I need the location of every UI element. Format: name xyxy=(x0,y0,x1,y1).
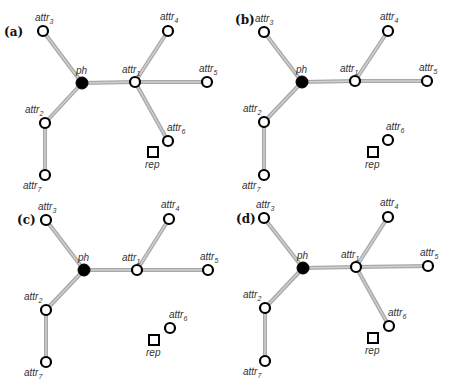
figure-canvas: phattr1attr2attr3attr4attr5attr6attr7rep… xyxy=(0,0,453,392)
node-label: attr1 xyxy=(122,64,140,77)
node-label: attr4 xyxy=(380,197,398,210)
node-label: attr3 xyxy=(38,201,56,214)
panel-label: (d) xyxy=(236,212,256,226)
rep-node: rep xyxy=(365,147,380,170)
node-attr4: attr4 xyxy=(160,11,178,36)
edge-ph-attr2 xyxy=(46,270,84,310)
attr-node-marker xyxy=(384,321,394,331)
panel-b: phattr1attr2attr3attr4attr5attr6attr7rep… xyxy=(235,11,437,193)
rep-label: rep xyxy=(145,159,160,170)
node-label: attr5 xyxy=(419,62,437,75)
edge-ph-attr2 xyxy=(265,268,303,308)
edge-attr1-attr4 xyxy=(355,31,388,81)
rep-label: rep xyxy=(365,345,380,356)
attr-node-marker xyxy=(40,170,50,180)
panel-label: (b) xyxy=(235,13,255,27)
attr-node-marker xyxy=(260,356,270,366)
node-attr6: attr6 xyxy=(165,309,187,333)
node-label: attr3 xyxy=(35,12,53,25)
node-label: attr3 xyxy=(255,13,273,26)
node-attr4: attr4 xyxy=(380,197,398,222)
edge-attr1-attr4 xyxy=(137,219,169,270)
attr-node-marker xyxy=(163,26,173,36)
node-attr2: attr2 xyxy=(243,103,269,127)
attr-node-marker xyxy=(132,265,142,275)
node-label: attr6 xyxy=(167,122,185,135)
node-attr3: attr3 xyxy=(35,12,53,36)
panel-c: phattr1attr2attr3attr4attr5attr6attr7rep… xyxy=(17,199,218,380)
node-label: attr6 xyxy=(386,121,404,134)
node-label: attr2 xyxy=(243,103,261,116)
node-label: attr7 xyxy=(24,367,43,380)
rep-label: rep xyxy=(146,347,161,358)
attr-node-marker xyxy=(165,323,175,333)
ph-node-marker xyxy=(297,262,309,274)
edge-attr1-attr5 xyxy=(356,266,428,267)
attr-node-marker xyxy=(203,265,213,275)
node-attr7: attr7 xyxy=(24,357,51,380)
rep-node: rep xyxy=(146,335,161,358)
attr-node-marker xyxy=(423,261,433,271)
node-attr7: attr7 xyxy=(243,356,270,379)
rep-square-marker xyxy=(148,147,158,157)
rep-label: rep xyxy=(365,159,380,170)
panel-d: phattr1attr2attr3attr4attr5attr6attr7rep… xyxy=(236,197,438,379)
attr-node-marker xyxy=(259,213,269,223)
ph-node-marker xyxy=(78,264,90,276)
attr-node-marker xyxy=(130,77,140,87)
node-label: attr4 xyxy=(160,11,178,24)
node-label: attr2 xyxy=(243,289,261,302)
rep-node: rep xyxy=(365,333,380,356)
node-label: ph xyxy=(295,64,308,75)
node-label: attr2 xyxy=(25,104,43,117)
attr-node-marker xyxy=(260,303,270,313)
node-attr2: attr2 xyxy=(25,104,50,128)
node-label: ph xyxy=(77,252,90,263)
node-label: attr5 xyxy=(199,63,217,76)
attr-node-marker xyxy=(383,135,393,145)
attr-node-marker xyxy=(41,357,51,367)
node-label: attr7 xyxy=(243,366,262,379)
attr-node-marker xyxy=(41,215,51,225)
node-attr7: attr7 xyxy=(23,170,50,193)
attr-node-marker xyxy=(351,262,361,272)
attr-node-marker xyxy=(259,117,269,127)
panel-a: phattr1attr2attr3attr4attr5attr6attr7rep… xyxy=(4,11,217,193)
edge-ph-attr1 xyxy=(302,81,355,82)
node-label: attr4 xyxy=(161,199,179,212)
ph-node-marker xyxy=(76,77,88,89)
rep-square-marker xyxy=(149,335,159,345)
attr-node-marker xyxy=(202,77,212,87)
node-label: attr5 xyxy=(420,247,438,260)
node-label: attr6 xyxy=(388,307,406,320)
node-attr7: attr7 xyxy=(242,170,269,193)
node-label: attr7 xyxy=(242,180,261,193)
edge-attr1-attr4 xyxy=(356,217,388,267)
node-attr4: attr4 xyxy=(161,199,179,224)
attr-node-marker xyxy=(40,118,50,128)
node-label: attr3 xyxy=(256,199,274,212)
node-label: ph xyxy=(296,250,309,261)
node-label: attr2 xyxy=(24,291,42,304)
node-attr6: attr6 xyxy=(383,121,404,145)
node-label: attr1 xyxy=(340,63,358,76)
attr-node-marker xyxy=(38,26,48,36)
node-attr5: attr5 xyxy=(420,247,438,271)
attr-node-marker xyxy=(164,214,174,224)
attr-node-marker xyxy=(41,305,51,315)
rep-node: rep xyxy=(145,147,160,170)
edge-ph-attr2 xyxy=(264,82,302,122)
edge-ph-attr2 xyxy=(45,83,82,123)
node-attr3: attr3 xyxy=(256,199,274,223)
ph-node-marker xyxy=(296,76,308,88)
node-label: attr4 xyxy=(380,11,398,24)
rep-square-marker xyxy=(368,333,378,343)
node-attr4: attr4 xyxy=(380,11,398,36)
edge-attr1-attr6 xyxy=(135,82,168,141)
edge-ph-attr1 xyxy=(303,267,356,268)
rep-square-marker xyxy=(368,147,378,157)
attr-node-marker xyxy=(422,76,432,86)
edge-ph-attr1 xyxy=(82,82,135,83)
node-attr2: attr2 xyxy=(243,289,270,313)
node-attr3: attr3 xyxy=(38,201,56,225)
